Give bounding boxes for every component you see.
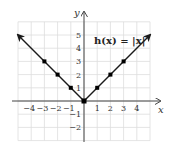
y-axis-label: y [73, 7, 80, 18]
data-point [42, 59, 46, 63]
data-point [69, 86, 73, 90]
y-tick-label: 2 [76, 71, 81, 80]
y-tick-label: −1 [69, 110, 81, 119]
absolute-value-graph: x y −4−3−2−11234 54321−1−2 h(x) = |x| [0, 0, 173, 145]
y-tick-label: 1 [76, 84, 81, 93]
data-point [122, 59, 126, 63]
data-point [108, 73, 112, 77]
x-tick-label: 3 [121, 104, 126, 113]
x-tick-label: 1 [95, 104, 100, 113]
data-point [82, 99, 87, 104]
y-tick-label: 5 [76, 31, 81, 40]
x-tick-label: 2 [108, 104, 113, 113]
y-tick-label: −2 [69, 123, 81, 132]
y-tick-label: 4 [76, 44, 81, 53]
x-axis-label: x [158, 104, 164, 115]
x-tick-label: −2 [50, 104, 62, 113]
x-tick-label: −4 [23, 104, 35, 113]
data-point [56, 73, 60, 77]
y-tick-label: 3 [76, 57, 81, 66]
x-tick-label: −3 [37, 104, 49, 113]
x-tick-labels: −4−3−2−11234 [23, 104, 139, 113]
function-label: h(x) = |x| [94, 35, 145, 47]
data-point [95, 86, 99, 90]
x-tick-label: 4 [134, 104, 139, 113]
